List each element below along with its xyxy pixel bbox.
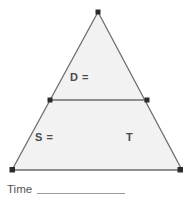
vertex-marker-apex	[96, 10, 101, 15]
triangle-body	[12, 12, 182, 170]
speed-label: S =	[35, 132, 53, 143]
vertex-marker-divider-left	[48, 98, 53, 103]
time-answer-row: Time	[7, 183, 187, 196]
formula-triangle-diagram	[0, 0, 192, 204]
time-symbol-label: T	[126, 132, 133, 143]
worksheet-page: D = S = T Time	[0, 0, 192, 204]
time-blank-line[interactable]	[37, 193, 125, 194]
vertex-marker-bottom-right	[178, 167, 184, 173]
time-field-label: Time	[7, 183, 32, 196]
vertex-marker-divider-right	[145, 98, 150, 103]
vertex-marker-bottom-left	[10, 167, 16, 173]
distance-label: D =	[70, 72, 89, 83]
